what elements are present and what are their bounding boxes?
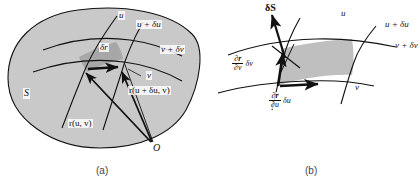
panel-a-graphic xyxy=(8,8,200,148)
label-a-u: u xyxy=(118,11,125,20)
label-b-u-plus-du: u + δu xyxy=(384,20,410,29)
caption-panel-a: (a) xyxy=(96,165,108,176)
fraction-dr-du: ∂r ∂u xyxy=(269,92,281,109)
label-b-v-plus-dv: v + δv xyxy=(394,41,419,50)
label-b-v: v xyxy=(354,83,360,92)
fraction-denominator-du: ∂u xyxy=(269,101,281,109)
vector-area-patch xyxy=(278,39,354,86)
fraction-denominator-dv: ∂v xyxy=(232,64,244,72)
caption-panel-b: (b) xyxy=(305,165,317,176)
label-a-position-vector-shifted: r(u + δu, v) xyxy=(128,86,171,95)
fraction-tail-delta-u: δu xyxy=(283,96,291,105)
label-b-delta-S: δS xyxy=(264,3,277,14)
label-a-position-vector: r(u, v) xyxy=(68,119,93,128)
label-a-v: v xyxy=(146,71,152,80)
label-a-u-plus-du: u + δu xyxy=(136,20,162,29)
figure-canvas xyxy=(0,0,420,191)
curve-b-v xyxy=(218,81,374,93)
label-b-u: u xyxy=(340,9,347,18)
label-a-origin: O xyxy=(152,143,161,154)
label-b-tangent-u: ∂r ∂u δu xyxy=(269,92,291,109)
label-a-v-plus-dv: v + δv xyxy=(160,45,185,54)
fraction-tail-delta-v: δv xyxy=(246,59,253,68)
figure-root: u u + δu v + δv v δr S r(u + δu, v) r(u,… xyxy=(0,0,420,191)
label-b-tangent-v: ∂r ∂v δv xyxy=(232,55,253,72)
label-a-surface-S: S xyxy=(23,88,30,99)
vector-dr-du xyxy=(280,84,318,86)
label-a-delta-r: δr xyxy=(99,43,109,52)
fraction-dr-dv: ∂r ∂v xyxy=(232,55,244,72)
